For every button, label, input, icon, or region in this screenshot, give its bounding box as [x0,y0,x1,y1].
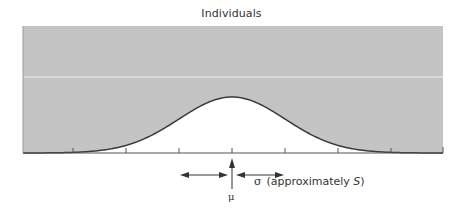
sigma-right-arrow-head-left-icon [236,172,245,178]
sigma-annotation: σ(approximately S) [254,175,365,188]
mu-label: μ [228,191,235,202]
sigma-left-arrow-head-right-icon [219,172,228,178]
mean-arrow-head-icon [229,158,235,168]
sigma-symbol: σ [254,175,262,188]
sigma-note-suffix: ) [360,175,364,188]
sigma-note-prefix: (approximately [267,175,354,188]
bell-curve-figure [0,0,463,213]
sigma-left-arrow-head-left-icon [180,172,189,178]
